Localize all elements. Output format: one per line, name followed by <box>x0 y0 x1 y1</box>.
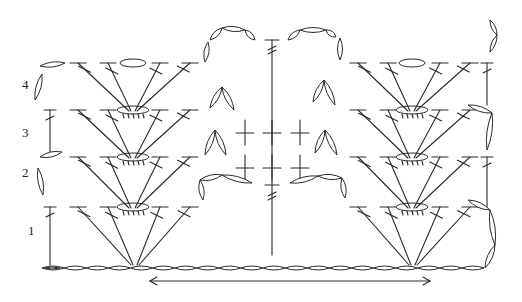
chain-stitch <box>351 266 373 270</box>
shell-tick <box>412 211 413 215</box>
shell-tick <box>123 161 124 165</box>
chain-loop <box>318 174 342 179</box>
stitch-stem <box>78 157 129 208</box>
stitch <box>380 207 411 265</box>
stitch-slash <box>457 113 469 119</box>
stitch <box>100 63 131 111</box>
shell-tick <box>412 114 413 118</box>
stitch <box>139 207 198 265</box>
stitch-stem <box>416 110 470 158</box>
chain-stitch <box>285 266 307 270</box>
stitch-diagram: 1 2 3 4 <box>0 0 522 302</box>
stitch <box>137 157 198 208</box>
stitch-stem <box>358 207 409 265</box>
chain-loops <box>35 20 497 268</box>
stitch-stem <box>108 110 131 158</box>
stitch <box>70 207 131 265</box>
stitch-stem <box>358 157 408 208</box>
stitch-slash <box>177 66 189 72</box>
stitch-stem <box>137 63 190 111</box>
stitch-stem <box>78 207 131 265</box>
stitch-fans <box>70 59 478 265</box>
stitch-slash <box>386 162 398 168</box>
chain-loop <box>290 176 318 183</box>
shell-tick <box>133 114 134 118</box>
shell-oval <box>117 106 149 114</box>
stitch-slash <box>430 162 442 168</box>
shell-tick <box>402 161 403 165</box>
chain-loop <box>468 105 492 113</box>
foundation-chain <box>42 266 484 270</box>
shell-tick <box>402 211 403 215</box>
shell-tick <box>422 161 423 165</box>
chain-stitch <box>219 266 241 270</box>
fan-left <box>70 59 198 265</box>
stitch-stem <box>417 207 470 265</box>
stitch-stem <box>388 63 410 111</box>
chain-loop <box>40 62 65 67</box>
stitch-slash <box>457 160 469 166</box>
shell-oval-top <box>399 59 425 67</box>
stitch-slash <box>358 113 370 119</box>
stitch-slash <box>78 211 90 217</box>
stitch-slash <box>457 66 469 72</box>
chain-loop <box>489 210 495 245</box>
stitch-slash <box>458 211 470 217</box>
stitch-stem <box>135 63 160 111</box>
chain-loop <box>35 74 42 100</box>
chain-stitch <box>197 266 219 270</box>
shell-tick <box>123 211 124 215</box>
stitch <box>70 110 129 158</box>
shell-tick <box>402 114 403 118</box>
stitch <box>70 157 129 208</box>
stitch-slash <box>386 115 398 121</box>
chain-loop <box>313 80 324 102</box>
chain-loop <box>204 42 209 62</box>
stitch <box>137 110 198 158</box>
repeat-arrow <box>150 277 430 285</box>
arrow-head-right <box>423 277 430 281</box>
shell-oval <box>396 106 428 114</box>
fan-right <box>350 59 478 265</box>
shell-tick <box>143 161 144 165</box>
shell-tick <box>138 161 139 165</box>
chain-loop <box>245 30 255 40</box>
chain-stitch <box>418 266 440 270</box>
crochet-chart: 1 2 3 4 <box>0 0 522 302</box>
chain-stitch <box>263 266 285 270</box>
chain-stitch <box>130 266 152 270</box>
chain-loop <box>490 35 497 52</box>
stitch-slash <box>106 162 118 168</box>
chain-stitch <box>153 266 175 270</box>
arrow-head-left <box>150 281 157 285</box>
shell-tick <box>407 211 408 215</box>
stitch-slash <box>78 160 90 166</box>
shell-oval <box>117 203 149 211</box>
stitch <box>100 110 131 158</box>
chain-stitch <box>86 266 108 270</box>
arrow-head-left <box>150 277 157 281</box>
stitch-slash <box>150 68 162 74</box>
shell-tick <box>128 161 129 165</box>
stitch <box>416 63 478 111</box>
shell-tick <box>417 211 418 215</box>
shell-oval-top <box>120 59 146 67</box>
row-label-2: 2 <box>22 165 29 180</box>
stitch-slash <box>385 212 397 218</box>
shell-tick <box>143 114 144 118</box>
shell-tick <box>128 114 129 118</box>
arrow-head-right <box>423 281 430 285</box>
stitch-slash <box>358 211 370 217</box>
chain-loop <box>222 26 245 31</box>
chain-loop <box>200 174 222 180</box>
stitch-slash <box>150 162 162 168</box>
stitch <box>70 63 129 111</box>
stitch <box>137 207 168 265</box>
chain-loop <box>199 180 204 200</box>
stitch-stem <box>139 207 190 265</box>
chain-loop <box>490 20 497 35</box>
chain-stitch <box>462 266 484 270</box>
chain-stitch <box>241 266 263 270</box>
chain-loop <box>338 38 343 60</box>
shell-tick <box>133 211 134 215</box>
